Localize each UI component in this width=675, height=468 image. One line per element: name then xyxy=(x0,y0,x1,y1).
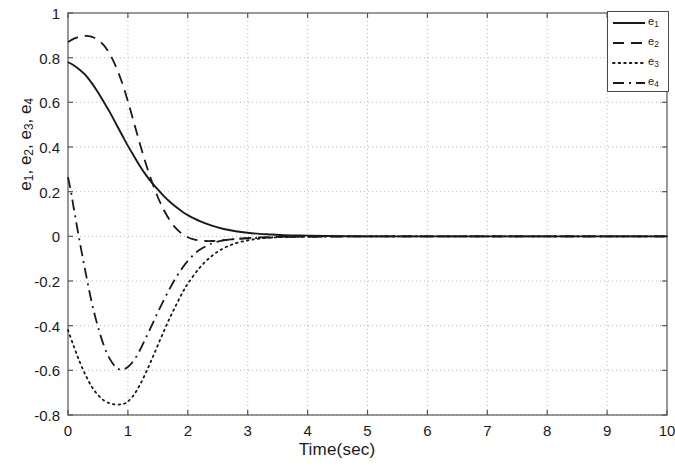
y-tick-label: -0.4 xyxy=(0,318,60,333)
x-tick-label: 3 xyxy=(244,423,252,438)
x-tick-label: 4 xyxy=(303,423,311,438)
legend-label: e2 xyxy=(648,36,659,49)
x-axis-label: Time(sec) xyxy=(0,440,674,460)
y-axis-label: e1, e2, e3, e4 xyxy=(16,34,37,254)
x-tick-label: 7 xyxy=(483,423,491,438)
legend-item-e3[interactable]: e3 xyxy=(608,53,668,73)
chart-legend: e1e2e3e4 xyxy=(607,11,669,92)
legend-item-e2[interactable]: e2 xyxy=(608,33,668,53)
y-tick-label: -0.6 xyxy=(0,363,60,378)
legend-swatch-dashdot xyxy=(611,77,647,89)
legend-swatch-solid xyxy=(611,17,647,29)
x-tick-label: 9 xyxy=(603,423,611,438)
y-tick-label: 1 xyxy=(0,6,60,21)
x-tick-label: 2 xyxy=(184,423,192,438)
y-tick-label: -0.8 xyxy=(0,408,60,423)
grid-lines xyxy=(68,13,667,415)
legend-swatch-dotted xyxy=(611,57,647,69)
x-tick-label: 6 xyxy=(423,423,431,438)
legend-label: e4 xyxy=(648,76,659,89)
x-tick-label: 8 xyxy=(543,423,551,438)
x-tick-label: 0 xyxy=(64,423,72,438)
legend-item-e1[interactable]: e1 xyxy=(608,13,668,33)
x-tick-label: 10 xyxy=(659,423,675,438)
legend-swatch-dashed xyxy=(611,37,647,49)
legend-item-e4[interactable]: e4 xyxy=(608,73,668,93)
legend-label: e3 xyxy=(648,56,659,69)
series-line-e_2 xyxy=(68,36,667,241)
x-tick-label: 5 xyxy=(363,423,371,438)
x-tick-label: 1 xyxy=(124,423,132,438)
legend-label: e1 xyxy=(648,16,659,29)
y-tick-label: -0.2 xyxy=(0,274,60,289)
